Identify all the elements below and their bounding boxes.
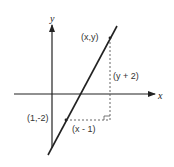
horizontal-segment-label: (x - 1) (72, 124, 96, 134)
x-axis-label: x (157, 90, 163, 101)
sloped-line (48, 26, 117, 155)
point-1-neg2 (65, 119, 68, 122)
coordinate-diagram: x y (x,y) (1,-2) (y + 2) (x - 1) (0, 0, 174, 167)
point-xy-label: (x,y) (81, 32, 99, 42)
vertical-segment-label: (y + 2) (113, 71, 139, 81)
point-1-neg2-label: (1,-2) (27, 113, 49, 123)
point-xy (109, 37, 112, 40)
right-angle-marker (104, 116, 110, 120)
y-axis-label: y (49, 13, 55, 24)
